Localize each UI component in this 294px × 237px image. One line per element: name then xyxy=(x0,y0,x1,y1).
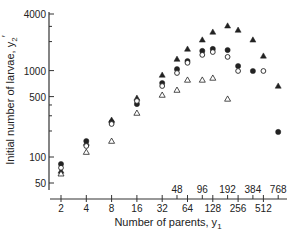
filled-triangle-point xyxy=(185,46,191,51)
x-tick-label: 64 xyxy=(182,203,194,214)
open-circle-point xyxy=(175,71,180,76)
series-filled-circle xyxy=(58,46,280,166)
x-axis-title: Number of parents, y1 xyxy=(114,216,222,231)
filled-triangle-point xyxy=(260,53,266,58)
y-axis-title-text: Initial number of larvae, y xyxy=(4,41,16,164)
x-top-tick-label: 768 xyxy=(270,184,287,195)
x-tick-label: 8 xyxy=(109,203,115,214)
x-axis-title-text: Number of parents, y xyxy=(114,216,217,228)
data-points xyxy=(58,23,281,176)
series-open-circle xyxy=(59,50,266,171)
open-circle-point xyxy=(225,55,230,60)
filled-triangle-point xyxy=(250,37,256,42)
y-tick-label: 500 xyxy=(29,92,46,103)
open-circle-point xyxy=(135,99,140,104)
open-triangle-point xyxy=(225,96,231,101)
open-triangle-point xyxy=(83,149,89,154)
x-top-tick-label: 192 xyxy=(219,184,236,195)
y-axis-title: Initial number of larvae, y2′ xyxy=(0,35,19,164)
scatter-chart: 5010050010004000 24816326412825651248961… xyxy=(0,0,294,237)
x-tick-label: 512 xyxy=(255,203,272,214)
open-triangle-point xyxy=(134,110,140,115)
filled-triangle-point xyxy=(235,27,241,32)
open-triangle-point xyxy=(174,87,180,92)
y-tick-label: 100 xyxy=(29,152,46,163)
open-circle-point xyxy=(160,84,165,89)
open-circle-point xyxy=(59,165,64,170)
filled-triangle-point xyxy=(199,37,205,42)
filled-triangle-point xyxy=(174,56,180,61)
open-circle-point xyxy=(84,144,89,149)
open-triangle-point xyxy=(210,75,216,80)
x-top-tick-label: 384 xyxy=(245,184,262,195)
x-tick-label: 4 xyxy=(84,203,90,214)
open-circle-point xyxy=(210,50,215,55)
x-top-tick-label: 96 xyxy=(197,184,209,195)
open-circle-point xyxy=(109,122,114,127)
filled-triangle-point xyxy=(159,72,165,77)
x-tick-label: 32 xyxy=(157,203,169,214)
y-tick-label: 50 xyxy=(35,178,47,189)
filled-circle-point xyxy=(84,138,89,143)
filled-circle-point xyxy=(236,63,241,68)
filled-triangle-point xyxy=(275,83,281,88)
y-tick-label: 1000 xyxy=(24,66,47,77)
series-open-triangle xyxy=(58,75,231,176)
filled-circle-point xyxy=(276,129,281,134)
x-tick-label: 16 xyxy=(131,203,143,214)
open-triangle-point xyxy=(159,92,165,97)
y-axis-title-prime: ′ xyxy=(0,35,12,37)
filled-circle-point xyxy=(225,47,230,52)
open-circle-point xyxy=(236,69,241,74)
open-triangle-point xyxy=(185,77,191,82)
filled-triangle-point xyxy=(225,23,231,28)
series-filled-triangle xyxy=(58,23,281,173)
x-tick-label: 2 xyxy=(58,203,64,214)
y-tick-label: 4000 xyxy=(24,9,47,20)
x-tick-label: 128 xyxy=(204,203,221,214)
open-triangle-point xyxy=(199,77,205,82)
x-top-tick-label: 48 xyxy=(171,184,183,195)
open-circle-point xyxy=(200,52,205,57)
x-tick-label: 256 xyxy=(230,203,247,214)
open-circle-point xyxy=(261,69,266,74)
filled-circle-point xyxy=(250,68,255,73)
open-triangle-point xyxy=(109,138,115,143)
filled-triangle-point xyxy=(210,29,216,34)
x-axis-title-subscript: 1 xyxy=(217,222,222,231)
open-circle-point xyxy=(185,60,190,65)
